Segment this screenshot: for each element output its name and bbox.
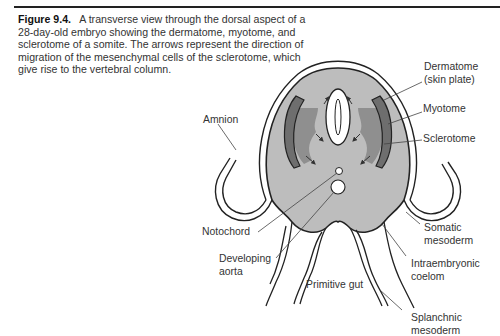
label-myotome: Myotome xyxy=(423,103,466,116)
label-dermatome: Dermatome (skin plate) xyxy=(424,61,478,86)
embryo-diagram xyxy=(0,0,500,336)
gut-wall-right xyxy=(350,228,382,306)
label-notochord: Notochord xyxy=(202,226,250,239)
label-splanchnic-mesoderm: Splanchnic mesoderm xyxy=(411,312,462,336)
label-developing-aorta: Developing aorta xyxy=(219,253,271,278)
neural-tube xyxy=(326,89,350,145)
label-primitive-gut: Primitive gut xyxy=(306,279,363,292)
gut-wall-left xyxy=(300,228,326,304)
label-somatic-mesoderm: Somatic mesoderm xyxy=(424,222,473,247)
label-sclerotome: Sclerotome xyxy=(423,133,476,146)
developing-aorta xyxy=(331,180,345,194)
label-amnion: Amnion xyxy=(203,114,238,127)
label-intraembryonic-coelom: Intraembryonic coelom xyxy=(411,258,480,283)
